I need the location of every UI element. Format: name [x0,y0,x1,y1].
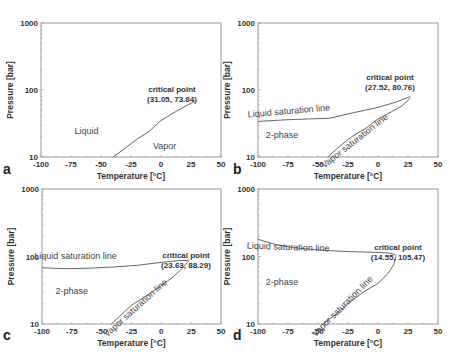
region-annotation: Vapor [153,141,176,151]
critical-point-value: (14.55, 105.47) [371,253,426,262]
y-tick-label: 100 [242,253,256,262]
x-tick-label: 50 [434,327,443,336]
y-tick-label: 10 [30,320,39,329]
panel-letter: a [3,161,11,177]
y-axis-label: Pressure [bar] [222,61,232,119]
x-axis-label: Temperature [°C] [314,171,383,181]
critical-point-value: (31.05, 73.84) [147,95,197,104]
y-axis-label: Pressure [bar] [6,228,16,286]
y-tick-label: 10 [246,153,255,162]
x-tick-label: 25 [187,327,196,336]
panel-letter: d [233,327,242,343]
y-tick-label: 100 [242,86,256,95]
y-tick-label: 10 [246,320,255,329]
phase-diagram-figure: -100-75-50-2502550101001000Temperature [… [0,0,458,360]
y-tick-label: 1000 [20,19,38,28]
critical-point-value: (27.52, 80.76) [365,83,415,92]
critical-point-label: critical point [148,85,196,94]
chart-panel-a: -100-75-50-2502550101001000Temperature [… [3,19,226,181]
x-tick-label: 50 [217,160,226,169]
x-axis-label: Temperature [°C] [97,171,166,181]
region-annotation: 2-phase [56,286,89,296]
panel-letter: b [233,161,242,177]
x-tick-label: 25 [187,160,196,169]
x-tick-label: -50 [95,160,107,169]
x-tick-label: -75 [65,160,77,169]
critical-point-value: (23.63, 88.29) [161,261,211,270]
y-tick-label: 100 [25,86,39,95]
chart-panel-b: -100-75-50-2502550101001000Temperature [… [222,19,443,181]
x-tick-label: 25 [404,160,413,169]
x-tick-label: -25 [125,160,137,169]
region-annotation: 2-phase [266,277,299,287]
panel-letter: c [3,327,11,343]
critical-point-label: critical point [162,251,210,260]
region-annotation: 2-phase [266,130,299,140]
x-tick-label: -75 [282,327,294,336]
x-tick-label: 50 [434,160,443,169]
critical-point-label: critical point [374,243,422,252]
region-annotation: Liquid [75,126,99,136]
chart-panel-c: -100-75-50-2502550101001000Temperature [… [3,185,226,348]
y-tick-label: 10 [29,153,38,162]
y-axis-label: Pressure [bar] [5,61,15,119]
region-annotation: Liquid saturation line [247,241,330,254]
region-annotation: Liquid saturation line [247,102,330,119]
x-tick-label: 0 [159,160,164,169]
y-tick-label: 1000 [237,19,255,28]
region-annotation: Liquid saturation line [34,251,117,261]
y-tick-label: 1000 [237,185,255,194]
x-tick-label: 50 [217,327,226,336]
y-axis-label: Pressure [bar] [222,228,232,286]
x-tick-label: -75 [282,160,294,169]
critical-point-label: critical point [366,73,414,82]
x-tick-label: -25 [342,160,354,169]
x-tick-label: -25 [126,327,138,336]
x-tick-label: 0 [376,327,381,336]
x-tick-label: -25 [342,327,354,336]
chart-panel-d: -100-75-50-2502550101001000Temperature [… [222,185,443,348]
y-tick-label: 1000 [21,185,39,194]
x-tick-label: 0 [376,160,381,169]
x-tick-label: 0 [159,327,164,336]
x-axis-label: Temperature [°C] [314,338,383,348]
x-tick-label: -75 [66,327,78,336]
x-tick-label: 25 [404,327,413,336]
